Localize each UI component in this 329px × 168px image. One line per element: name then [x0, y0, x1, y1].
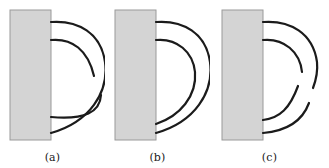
panel-c-inner-strand-lower — [263, 86, 298, 120]
panel-c-drawing — [210, 0, 329, 168]
panel-b-outer-loop — [156, 22, 210, 133]
panel-c-outer-strand-upper — [263, 22, 317, 88]
panel-c-slab — [222, 10, 263, 140]
panel-a-inner-strand-upper — [51, 40, 94, 76]
panel-a-drawing — [0, 0, 105, 168]
panel-a-slab — [10, 10, 51, 140]
panel-c: (c) — [210, 0, 329, 168]
panel-b-drawing — [105, 0, 210, 168]
panel-b-inner-loop — [156, 40, 195, 124]
panel-b: (b) — [105, 0, 210, 168]
panel-c-inner-strand-upper — [263, 40, 302, 72]
figure-container: (a) (b) (c) — [0, 0, 329, 168]
panel-c-label: (c) — [210, 151, 329, 164]
panel-b-label: (b) — [105, 151, 210, 164]
panel-a-label: (a) — [0, 151, 105, 164]
panel-b-slab — [115, 10, 156, 140]
panel-a: (a) — [0, 0, 105, 168]
